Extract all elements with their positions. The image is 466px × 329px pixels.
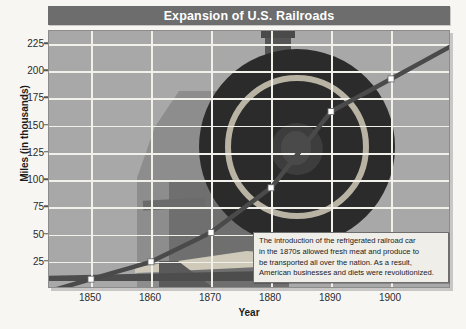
data-point-marker	[208, 229, 214, 235]
data-point-marker	[388, 76, 394, 82]
y-axis-tick-label: 225	[10, 38, 44, 49]
x-axis-tick-label: 1890	[308, 292, 352, 303]
data-point-marker	[328, 109, 334, 115]
chart-page: Expansion of U.S. Railroads 255075100125…	[0, 0, 466, 329]
y-axis-tick-label: 25	[10, 255, 44, 266]
x-axis-ticks: 185018601870188018901900	[48, 292, 450, 308]
chart-title-bar: Expansion of U.S. Railroads	[48, 6, 450, 25]
data-point-marker	[268, 185, 274, 191]
y-axis-tick-label: 50	[10, 228, 44, 239]
x-axis-tick-label: 1860	[128, 292, 172, 303]
note-line-4: American businesses and diets were revol…	[259, 268, 444, 279]
data-point-marker	[148, 259, 154, 265]
x-axis-tick-label: 1900	[368, 292, 412, 303]
note-line-3: be transported all over the nation. As a…	[259, 258, 444, 269]
page-title: Expansion of U.S. Railroads	[164, 9, 335, 23]
x-axis-title: Year	[48, 307, 450, 318]
x-axis-tick-label: 1870	[188, 292, 232, 303]
x-axis-tick-label: 1850	[68, 292, 112, 303]
refrigerated-car-note: The introduction of the refrigerated rai…	[253, 232, 449, 283]
data-point-marker	[88, 276, 94, 282]
y-axis-title: Miles (in thousands)	[19, 64, 30, 204]
note-line-1: The introduction of the refrigerated rai…	[259, 236, 444, 247]
x-axis-tick-label: 1880	[248, 292, 292, 303]
note-line-2: in the 1870s allowed fresh meat and prod…	[259, 247, 444, 258]
